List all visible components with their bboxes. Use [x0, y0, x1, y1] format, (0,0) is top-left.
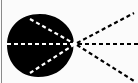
black-body-shape	[7, 14, 74, 77]
outer-ray-lower	[77, 45, 134, 81]
outer-ray-upper	[77, 13, 134, 43]
ray-diagram	[0, 0, 138, 83]
outer-rays	[77, 13, 138, 81]
diagram-canvas	[0, 0, 138, 83]
